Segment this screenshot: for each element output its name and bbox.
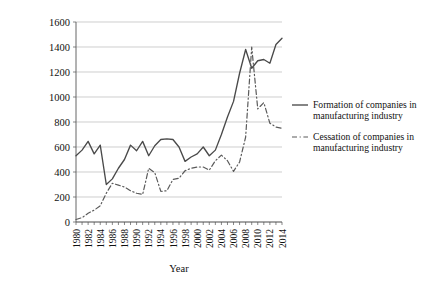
x-axis-tick-label: 1992 <box>144 229 154 248</box>
x-axis-tick-label: 1994 <box>156 229 166 248</box>
x-axis-tick-label: 2008 <box>241 229 251 248</box>
x-axis-tick-label: 1982 <box>84 229 94 248</box>
x-axis-tick-label: 2010 <box>253 229 263 248</box>
chart-container: 0200400600800100012001400160019801982198… <box>0 0 436 286</box>
x-axis-title: Year <box>169 263 189 274</box>
legend-label-line1: Formation of companies in <box>313 99 417 110</box>
line-chart: 0200400600800100012001400160019801982198… <box>0 0 436 286</box>
x-axis-tick-label: 1988 <box>120 229 130 248</box>
x-axis-tick-label: 2012 <box>265 229 275 248</box>
x-axis-tick-label: 1984 <box>96 229 106 248</box>
x-axis-tick-label: 1996 <box>169 229 179 248</box>
x-axis-tick-label: 1998 <box>181 229 191 248</box>
y-axis-tick-label: 1200 <box>49 67 70 78</box>
x-axis-tick-label: 1980 <box>72 229 82 248</box>
x-axis-tick-label: 2014 <box>278 229 288 248</box>
y-axis-tick-label: 800 <box>54 117 70 128</box>
legend-label-line2: manufacturing industry <box>313 142 403 153</box>
x-axis-tick-label: 1986 <box>108 229 118 248</box>
y-axis-tick-label: 600 <box>54 142 70 153</box>
series-line-cessation <box>76 47 282 220</box>
y-axis-tick-label: 0 <box>65 217 70 228</box>
x-axis-tick-label: 1990 <box>132 229 142 248</box>
x-axis-tick-label: 2006 <box>229 229 239 248</box>
y-axis-tick-label: 200 <box>54 192 70 203</box>
y-axis-tick-label: 400 <box>54 167 70 178</box>
y-axis-tick-label: 1400 <box>49 42 70 53</box>
x-axis-tick-label: 2004 <box>217 229 227 248</box>
legend-label-line1: Cessation of companies in <box>313 131 414 142</box>
x-axis-tick-label: 2000 <box>193 229 203 248</box>
x-axis-tick-label: 2002 <box>205 229 215 248</box>
legend-label-line2: manufacturing industry <box>313 110 403 121</box>
y-axis-tick-label: 1600 <box>49 17 70 28</box>
y-axis-tick-label: 1000 <box>49 92 70 103</box>
